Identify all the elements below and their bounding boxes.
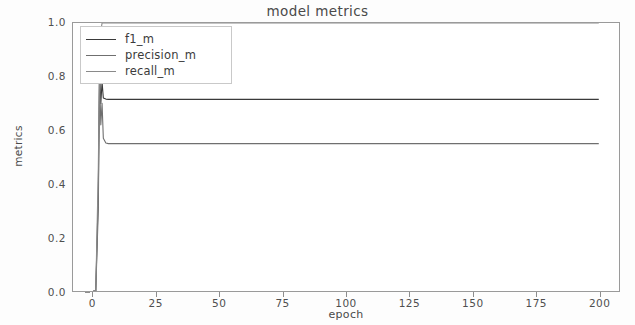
x-tick-mark — [346, 292, 347, 297]
matplotlib-figure: model metrics metrics epoch 0.00.20.40.6… — [0, 0, 635, 325]
x-tick-mark — [536, 292, 537, 297]
x-tick-label: 0 — [62, 297, 122, 309]
x-tick-mark — [156, 292, 157, 297]
x-tick-label: 175 — [506, 297, 566, 309]
legend-item-precision_m[interactable]: precision_m — [86, 47, 225, 63]
x-tick-mark — [283, 292, 284, 297]
series-line-precision_m — [93, 77, 599, 291]
legend-label: f1_m — [125, 32, 154, 46]
x-tick-mark — [409, 292, 410, 297]
y-axis-ticks: 0.00.20.40.60.81.0 — [18, 0, 66, 325]
x-tick-label: 150 — [443, 297, 503, 309]
x-tick-label: 125 — [379, 297, 439, 309]
y-tick-label: 0.8 — [26, 70, 66, 82]
legend-swatch-recall_m — [86, 71, 116, 72]
y-tick-mark — [85, 292, 90, 293]
y-tick-label: 0.4 — [26, 178, 66, 190]
legend-swatch-precision_m — [86, 55, 116, 56]
x-tick-mark — [92, 292, 93, 297]
x-tick-label: 75 — [253, 297, 313, 309]
x-tick-mark — [600, 292, 601, 297]
y-tick-label: 0.0 — [26, 286, 66, 298]
legend-item-f1_m[interactable]: f1_m — [86, 31, 225, 47]
series-line-f1_m — [93, 71, 599, 291]
x-tick-mark — [473, 292, 474, 297]
legend-swatch-f1_m — [86, 39, 116, 40]
x-tick-label: 25 — [126, 297, 186, 309]
x-tick-label: 50 — [189, 297, 249, 309]
x-tick-mark — [219, 292, 220, 297]
x-tick-label: 200 — [570, 297, 630, 309]
y-tick-label: 0.6 — [26, 124, 66, 136]
x-axis-label: epoch — [72, 308, 620, 321]
y-tick-label: 0.2 — [26, 232, 66, 244]
y-tick-label: 1.0 — [26, 16, 66, 28]
x-tick-label: 100 — [316, 297, 376, 309]
legend-label: precision_m — [125, 48, 196, 62]
chart-title: model metrics — [0, 3, 635, 19]
legend-label: recall_m — [125, 64, 175, 78]
legend: f1_mprecision_mrecall_m — [80, 26, 232, 84]
legend-item-recall_m[interactable]: recall_m — [86, 63, 225, 79]
